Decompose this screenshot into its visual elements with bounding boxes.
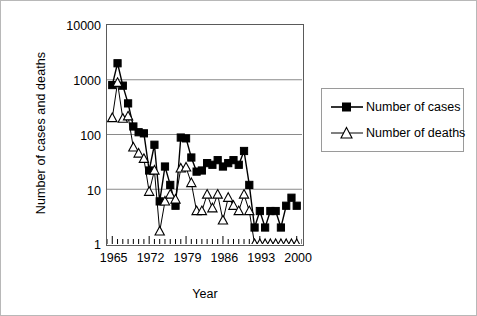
x-tick-label: 1993 [247,251,275,265]
data-point-deaths [187,178,196,187]
data-point-cases [272,207,279,214]
legend-item-deaths: Number of deaths [330,124,465,142]
data-point-cases [293,202,300,209]
data-point-cases [240,147,247,154]
legend-label-cases: Number of cases [366,100,460,114]
legend-symbol-open-triangle [330,125,364,141]
data-point-deaths [218,215,227,224]
chart-legend: Number of cases Number of deaths [321,88,464,152]
y-tick-label: 1 [37,239,107,252]
data-point-cases [262,224,269,231]
x-tick-label: 1986 [210,251,238,265]
data-point-deaths [155,226,164,235]
data-point-cases [124,100,131,107]
data-point-deaths [224,193,233,202]
chart-figure: Number of cases and deaths 1101001000100… [0,0,477,316]
data-point-cases [188,154,195,161]
legend-item-cases: Number of cases [330,98,460,116]
x-tick-label: 2000 [284,251,312,265]
data-point-deaths [145,187,154,196]
data-point-cases [256,207,263,214]
data-point-deaths [108,113,117,122]
data-point-deaths [129,142,138,151]
y-tick-label: 100 [37,130,107,143]
x-axis-title: Year [106,287,304,301]
x-tick-label: 1965 [100,251,128,265]
data-point-cases [182,135,189,142]
data-point-deaths [229,201,238,210]
data-point-cases [235,161,242,168]
data-point-cases [283,202,290,209]
data-point-cases [277,224,284,231]
data-point-cases [114,60,121,67]
data-point-deaths [202,190,211,199]
plot-area: 110100100010000196519721979198619932000 [106,24,304,246]
data-point-cases [167,181,174,188]
legend-label-deaths: Number of deaths [366,126,465,140]
data-point-deaths [213,190,222,199]
y-tick-label: 10 [37,184,107,197]
legend-symbol-filled-square [330,99,364,115]
data-point-deaths [239,190,248,199]
x-tick-label: 1972 [137,251,165,265]
y-tick-label: 10000 [37,20,107,33]
data-point-deaths [166,190,175,199]
data-point-cases [151,141,158,148]
x-tick-label: 1979 [174,251,202,265]
data-point-cases [288,194,295,201]
plot-svg [107,25,302,244]
data-point-cases [161,163,168,170]
data-point-cases [140,130,147,137]
data-point-cases [198,167,205,174]
data-point-deaths [208,203,217,212]
y-tick-label: 1000 [37,75,107,88]
data-point-cases [246,181,253,188]
